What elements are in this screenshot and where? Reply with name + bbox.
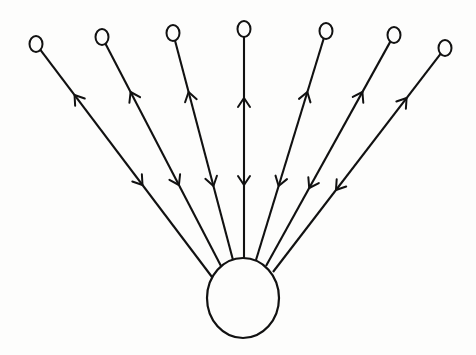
edge-7 (273, 54, 441, 272)
star-diagram (0, 0, 476, 355)
leaf-4-node (238, 21, 251, 37)
edge-3 (175, 40, 233, 260)
leaf-6-node (388, 27, 401, 43)
leaf-5-node (320, 23, 333, 39)
edge-arrows (75, 92, 407, 190)
leaf-3-node (167, 25, 180, 41)
leaf-7-node (439, 40, 452, 56)
leaf-2-node (96, 29, 109, 45)
leaf-1-node (30, 36, 43, 52)
edge-5 (256, 38, 324, 260)
leaf-nodes (30, 21, 452, 56)
edges (40, 36, 441, 277)
edge-6 (266, 41, 391, 266)
edge-2 (105, 43, 221, 266)
hub-node (207, 258, 279, 338)
